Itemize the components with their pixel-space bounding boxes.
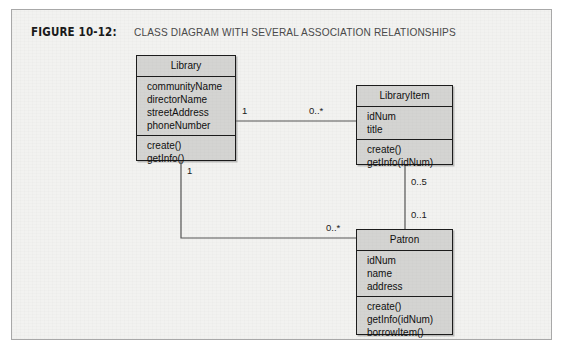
class-operation: create() — [147, 139, 235, 152]
multiplicity-library-to-libraryitem-far: 0..* — [309, 105, 323, 116]
figure-root: FIGURE 10-12:CLASS DIAGRAM WITH SEVERAL … — [0, 0, 566, 353]
class-attributes-compartment: idNum title — [357, 106, 452, 139]
class-attribute: streetAddress — [147, 106, 235, 119]
uml-class-library[interactable]: Library communityName directorName stree… — [136, 55, 236, 161]
uml-class-diagram: Library communityName directorName stree… — [12, 10, 553, 341]
class-operation: getInfo() — [147, 152, 235, 165]
class-name-compartment: LibraryItem — [357, 86, 452, 106]
multiplicity-library-to-libraryitem-near: 1 — [242, 105, 247, 116]
class-operations-compartment: create() getInfo(idNum) — [357, 139, 452, 172]
class-operation: create() — [367, 300, 452, 313]
multiplicity-library-to-patron-near: 1 — [187, 165, 192, 176]
multiplicity-libraryitem-to-patron-far: 0..1 — [411, 209, 427, 220]
class-operation: getInfo(idNum) — [367, 313, 452, 326]
class-attribute: name — [367, 267, 452, 280]
class-operations-compartment: create() getInfo() — [137, 135, 235, 168]
class-attribute: directorName — [147, 93, 235, 106]
multiplicity-libraryitem-to-patron-near: 0..5 — [411, 176, 427, 187]
class-operation: getInfo(idNum) — [367, 156, 452, 169]
class-attributes-compartment: idNum name address — [357, 250, 452, 296]
class-name: Patron — [390, 234, 419, 245]
class-attribute: address — [367, 280, 452, 293]
class-name: Library — [171, 60, 202, 71]
class-attribute: communityName — [147, 80, 235, 93]
class-operation: borrowItem() — [367, 326, 452, 339]
uml-class-libraryitem[interactable]: LibraryItem idNum title create() getInfo… — [356, 85, 453, 165]
class-name: LibraryItem — [379, 90, 429, 101]
class-attribute: idNum — [367, 254, 452, 267]
class-attribute: title — [367, 123, 452, 136]
class-attributes-compartment: communityName directorName streetAddress… — [137, 76, 235, 135]
class-operation: create() — [367, 143, 452, 156]
uml-class-patron[interactable]: Patron idNum name address create() getIn… — [356, 229, 453, 335]
class-operations-compartment: create() getInfo(idNum) borrowItem() — [357, 296, 452, 342]
association-connectors — [12, 10, 553, 341]
class-attribute: phoneNumber — [147, 119, 235, 132]
class-name-compartment: Library — [137, 56, 235, 76]
class-name-compartment: Patron — [357, 230, 452, 250]
figure-panel: FIGURE 10-12:CLASS DIAGRAM WITH SEVERAL … — [11, 9, 552, 340]
multiplicity-library-to-patron-far: 0..* — [326, 222, 340, 233]
class-attribute: idNum — [367, 110, 452, 123]
